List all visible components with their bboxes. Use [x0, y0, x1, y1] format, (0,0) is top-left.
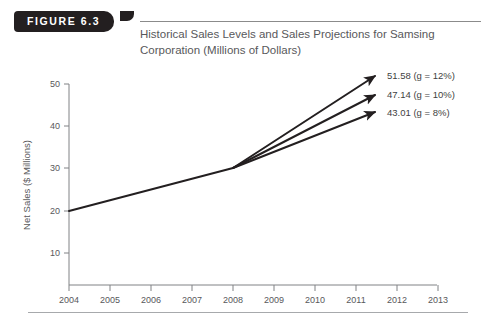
x-tick-label: 2006: [141, 295, 161, 305]
figure-title: Historical Sales Levels and Sales Projec…: [140, 26, 470, 58]
figure-number-label: FIGURE 6.3: [27, 16, 100, 27]
y-tick-label: 30: [50, 163, 60, 173]
projection-label-8pct: 43.01 (g = 8%): [387, 107, 450, 118]
x-tick-label: 2011: [346, 295, 365, 305]
figure-number-tag: FIGURE 6.3: [14, 11, 114, 32]
y-tick-label: 20: [50, 206, 60, 216]
x-tick-label: 2007: [182, 295, 202, 305]
figure-title-line-2: Corporation (Millions of Dollars): [140, 42, 470, 58]
figure-header: FIGURE 6.3 Historical Sales Levels and S…: [0, 0, 484, 40]
x-tick-label: 2005: [100, 295, 120, 305]
header-divider: [140, 21, 481, 22]
figure-title-line-1: Historical Sales Levels and Sales Projec…: [140, 26, 470, 42]
x-tick-label: 2012: [387, 295, 407, 305]
x-tick-label: 2013: [428, 295, 448, 305]
projection-line-10pct: [233, 95, 375, 168]
projection-label-12pct: 51.58 (g = 12%): [387, 70, 455, 81]
projection-label-10pct: 47.14 (g = 10%): [387, 89, 455, 100]
figure-bottom-divider: [28, 312, 468, 313]
figure-tag-notch: [120, 11, 134, 21]
y-axis-ticks: 50 40 30 20 10: [50, 79, 69, 258]
x-tick-label: 2010: [305, 295, 325, 305]
sales-projection-line-chart: 50 40 30 20 10 Net Sales ($ Millions) 20…: [0, 60, 484, 305]
x-tick-label: 2009: [264, 295, 284, 305]
x-tick-label: 2008: [223, 295, 243, 305]
chart-axes: [69, 84, 437, 285]
y-tick-label: 10: [50, 248, 60, 258]
projection-line-12pct: [233, 76, 375, 168]
projection-line-8pct: [233, 112, 375, 168]
x-axis-ticks: 2004 2005 2006 2007 2008 2009 2010 2011 …: [59, 285, 448, 305]
historical-sales-line: [69, 168, 233, 211]
y-axis-title: Net Sales ($ Millions): [21, 140, 32, 230]
chart-container: 50 40 30 20 10 Net Sales ($ Millions) 20…: [0, 60, 484, 305]
y-tick-label: 40: [50, 121, 60, 131]
y-tick-label: 50: [50, 79, 60, 89]
x-tick-label: 2004: [59, 295, 79, 305]
